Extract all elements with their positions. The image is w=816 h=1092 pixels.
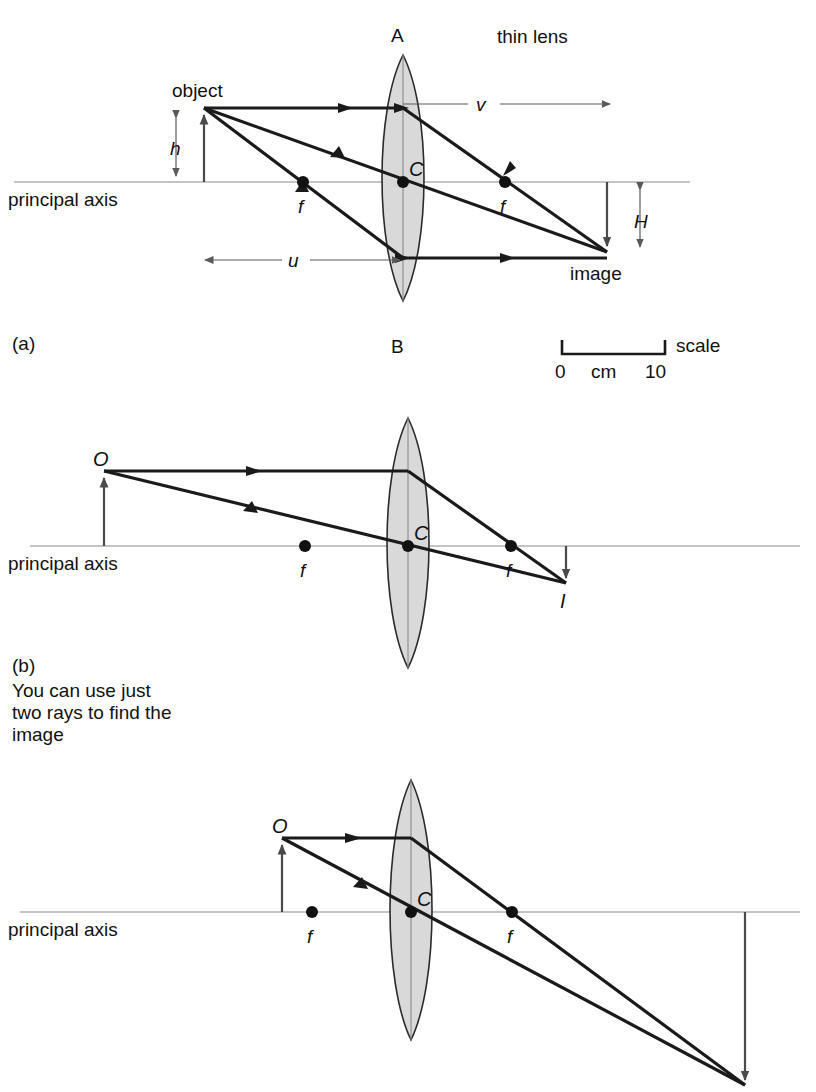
focal-point-dot-right-c — [506, 906, 518, 918]
label-lens-centre-a: C — [409, 158, 424, 180]
ray-centre-b — [104, 471, 566, 583]
label-principal-axis-b: principal axis — [8, 553, 118, 574]
note-line-2: two rays to find the — [12, 702, 171, 723]
panel-b-group: O I principal axis C f f (b) You can use… — [8, 418, 800, 745]
lens-centre-dot-c — [405, 906, 417, 918]
focal-point-dot-right-a — [499, 176, 511, 188]
figure-canvas: object image principal axis A B C f f h … — [0, 0, 816, 1092]
label-focal-right-c: f — [507, 926, 514, 947]
caption-a: (a) — [12, 333, 35, 354]
focal-point-dot-right-b — [505, 540, 517, 552]
lens-centre-dot-a — [397, 176, 409, 188]
label-object-distance-a: u — [288, 250, 299, 271]
label-principal-axis-c: principal axis — [8, 919, 118, 940]
label-lens-centre-c: C — [417, 888, 432, 910]
label-focal-left-a: f — [298, 196, 305, 217]
label-image-point-b: I — [560, 590, 566, 612]
lens-centre-dot-b — [402, 540, 414, 552]
focal-point-dot-left-c — [306, 906, 318, 918]
label-lens-top-a: A — [391, 25, 404, 46]
label-object-point-b: O — [93, 448, 109, 470]
label-thin-lens: thin lens — [497, 26, 568, 47]
label-focal-left-b: f — [300, 560, 307, 581]
label-lens-centre-b: C — [414, 522, 429, 544]
scale-min-label: 0 — [555, 361, 566, 382]
scale-label: scale — [676, 335, 720, 356]
label-image-a: image — [570, 263, 622, 284]
focal-point-dot-left-b — [299, 540, 311, 552]
scale-bar: 0 cm 10 scale — [555, 335, 720, 382]
caption-b: (b) — [12, 655, 35, 676]
label-principal-axis-a: principal axis — [8, 189, 118, 210]
scale-max-label: 10 — [645, 361, 666, 382]
label-image-distance-a: v — [476, 94, 487, 115]
label-focal-left-c: f — [307, 926, 314, 947]
label-object-a: object — [172, 80, 223, 101]
note-line-3: image — [12, 724, 64, 745]
label-object-height-a: h — [170, 138, 181, 159]
focal-point-dot-left-a — [297, 176, 309, 188]
panel-c-group: O principal axis C f f — [8, 780, 800, 1085]
label-object-point-c: O — [272, 815, 288, 837]
optics-ray-diagram-svg: object image principal axis A B C f f h … — [0, 0, 816, 1092]
scale-unit-label: cm — [591, 361, 616, 382]
note-line-1: You can use just — [12, 680, 151, 701]
label-lens-bottom-a: B — [391, 336, 404, 357]
label-focal-right-a: f — [500, 196, 507, 217]
panel-a-group: object image principal axis A B C f f h … — [8, 25, 720, 382]
label-image-height-a: H — [634, 211, 648, 232]
ray-centre-c — [282, 838, 745, 1085]
